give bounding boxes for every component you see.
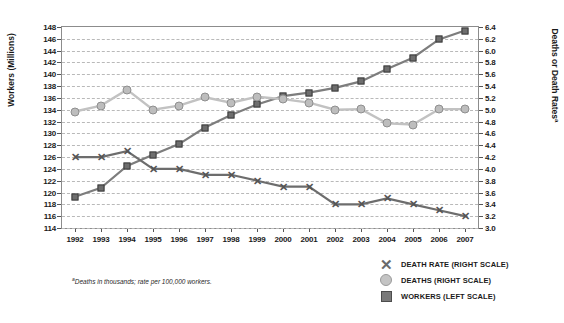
- data-point-x: ✕: [70, 152, 81, 163]
- data-point-square: [254, 101, 261, 108]
- data-point-x: ✕: [356, 199, 367, 210]
- data-point-square: [410, 54, 417, 61]
- y-axis-left-tick-label: 122: [30, 176, 56, 185]
- x-glyph: ✕: [380, 258, 393, 271]
- data-point-circle: [175, 101, 184, 110]
- y-axis-right-tick-label: 3.0: [485, 224, 511, 233]
- y-axis-left-tick-label: 132: [30, 117, 56, 126]
- series-line: [75, 90, 465, 125]
- y-axis-right-tick-label: 5.6: [485, 70, 511, 79]
- y-axis-right-tick-label: 3.8: [485, 176, 511, 185]
- data-point-circle: [253, 92, 262, 101]
- y-axis-right-tick-mark: [479, 204, 483, 205]
- chart-legend: ✕DEATH RATE (RIGHT SCALE)DEATHS (RIGHT S…: [378, 256, 509, 304]
- y-axis-right-tick-mark: [479, 27, 483, 28]
- y-axis-right-tick-label: 4.8: [485, 117, 511, 126]
- y-axis-right-tick-mark: [479, 98, 483, 99]
- data-point-x: ✕: [434, 205, 445, 216]
- data-point-x: ✕: [382, 193, 393, 204]
- footnote: aDeaths in thousands; rate per 100,000 w…: [72, 276, 212, 285]
- series-line: [75, 151, 465, 216]
- x-axis-tick-label: 2004: [379, 235, 396, 244]
- y-axis-right-tick-mark: [479, 51, 483, 52]
- y-axis-left-tick-label: 118: [30, 200, 56, 209]
- data-point-square: [228, 112, 235, 119]
- data-point-x: ✕: [330, 199, 341, 210]
- data-point-circle: [97, 101, 106, 110]
- y-axis-right-tick-label: 3.6: [485, 188, 511, 197]
- data-point-square: [332, 84, 339, 91]
- data-point-circle: [435, 105, 444, 114]
- y-axis-right-tick-mark: [479, 157, 483, 158]
- data-point-x: ✕: [278, 181, 289, 192]
- y-axis-left-tick-label: 138: [30, 82, 56, 91]
- data-point-circle: [331, 105, 340, 114]
- data-point-x: ✕: [460, 211, 471, 222]
- data-point-square: [436, 36, 443, 43]
- data-point-square: [358, 78, 365, 85]
- data-point-square: [150, 151, 157, 158]
- y-axis-left-tick-label: 124: [30, 164, 56, 173]
- data-point-circle: [409, 120, 418, 129]
- y-axis-right-tick-mark: [479, 133, 483, 134]
- data-point-circle: [383, 119, 392, 128]
- data-point-circle: [201, 93, 210, 102]
- data-point-x: ✕: [252, 175, 263, 186]
- y-axis-right-tick-label: 5.2: [485, 93, 511, 102]
- data-point-square: [384, 65, 391, 72]
- y-axis-left-tick-label: 146: [30, 34, 56, 43]
- x-axis-tick-label: 1997: [197, 235, 214, 244]
- legend-label: DEATHS (RIGHT SCALE): [401, 276, 491, 285]
- plot-area: ✕✕✕✕✕✕✕✕✕✕✕✕✕✕✕✕: [61, 26, 479, 229]
- x-axis-tick-label: 1993: [93, 235, 110, 244]
- x-axis-tick-label: 1996: [171, 235, 188, 244]
- data-point-circle: [461, 105, 470, 114]
- legend-label: WORKERS (LEFT SCALE): [401, 292, 496, 301]
- y-axis-right-tick-mark: [479, 74, 483, 75]
- y-axis-right-tick-mark: [479, 228, 483, 229]
- data-point-x: ✕: [200, 169, 211, 180]
- y-axis-right-tick-label: 6.0: [485, 46, 511, 55]
- circle-marker-icon: [378, 273, 394, 287]
- square-glyph: [381, 291, 392, 302]
- y-axis-right-tick-mark: [479, 145, 483, 146]
- y-axis-right-tick-label: 4.2: [485, 153, 511, 162]
- y-axis-right-tick-mark: [479, 169, 483, 170]
- y-axis-right-tick-label: 6.4: [485, 23, 511, 32]
- y-axis-right-title-text: Deaths or Death Rates: [550, 28, 560, 119]
- data-point-circle: [71, 107, 80, 116]
- y-axis-right-tick-mark: [479, 181, 483, 182]
- y-axis-right-tick-mark: [479, 62, 483, 63]
- data-point-square: [124, 162, 131, 169]
- data-point-x: ✕: [304, 181, 315, 192]
- y-axis-right-tick-label: 5.4: [485, 82, 511, 91]
- legend-item: DEATHS (RIGHT SCALE): [378, 272, 509, 288]
- y-axis-left-title: Workers (Millions): [6, 33, 16, 107]
- y-axis-left-tick-label: 120: [30, 188, 56, 197]
- series-line: [75, 31, 465, 197]
- data-point-square: [72, 193, 79, 200]
- y-axis-left-tick-label: 140: [30, 70, 56, 79]
- x-marker-icon: ✕: [378, 257, 394, 271]
- y-axis-left-tick-label: 142: [30, 58, 56, 67]
- y-axis-right-tick-label: 4.0: [485, 164, 511, 173]
- data-point-circle: [279, 95, 288, 104]
- data-point-circle: [149, 105, 158, 114]
- data-point-x: ✕: [174, 163, 185, 174]
- x-axis-tick-label: 1992: [67, 235, 84, 244]
- y-axis-right-tick-mark: [479, 86, 483, 87]
- data-point-square: [176, 141, 183, 148]
- x-axis-tick-label: 2006: [431, 235, 448, 244]
- y-axis-left-tick-label: 116: [30, 212, 56, 221]
- square-marker-icon: [378, 289, 394, 303]
- data-point-x: ✕: [148, 163, 159, 174]
- y-axis-right-tick-label: 6.2: [485, 34, 511, 43]
- data-point-x: ✕: [226, 169, 237, 180]
- y-axis-left-tick-label: 128: [30, 141, 56, 150]
- y-axis-right-tick-mark: [479, 110, 483, 111]
- y-axis-left-tick-label: 144: [30, 46, 56, 55]
- data-point-square: [306, 89, 313, 96]
- legend-label: DEATH RATE (RIGHT SCALE): [401, 260, 509, 269]
- circle-glyph: [380, 274, 392, 286]
- y-axis-right-tick-mark: [479, 216, 483, 217]
